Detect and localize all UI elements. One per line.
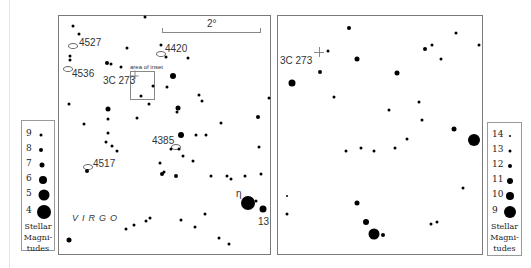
star <box>228 243 231 246</box>
quasar-label: 3C 273 <box>280 56 312 66</box>
star <box>120 66 123 69</box>
star <box>226 175 229 178</box>
galaxy-label-4420: 4420 <box>165 44 187 54</box>
galaxy-label-4527: 4527 <box>79 38 101 48</box>
star <box>347 26 351 30</box>
star <box>260 173 263 176</box>
star <box>395 71 400 76</box>
star <box>107 118 110 121</box>
star <box>180 219 183 222</box>
star <box>149 217 152 220</box>
star <box>318 70 322 74</box>
star <box>289 80 296 87</box>
star <box>201 100 204 103</box>
star <box>178 132 184 138</box>
star <box>210 175 213 178</box>
star <box>394 147 397 150</box>
star <box>468 134 480 146</box>
star <box>166 86 169 89</box>
legend-row-mag4: 4 <box>22 204 54 220</box>
star <box>83 123 86 126</box>
star <box>345 150 348 153</box>
star <box>195 134 198 137</box>
main-magnitude-legend: 9 8 7 6 5 4 Stellar Magni- tudes <box>21 120 55 251</box>
star <box>160 44 163 47</box>
star <box>152 85 155 88</box>
page-margin-line <box>9 0 10 268</box>
star-13 <box>260 206 267 213</box>
eta-star-label: η <box>236 189 242 199</box>
star <box>72 25 75 28</box>
star <box>218 237 221 240</box>
quasar-label: 3C 273 <box>103 76 135 86</box>
star <box>256 115 260 119</box>
star <box>68 103 71 106</box>
legend-row-mag9: 9 <box>22 127 54 143</box>
galaxy-label-4517: 4517 <box>93 159 115 169</box>
legend-row-mag14: 14 <box>488 128 521 144</box>
star <box>182 155 185 158</box>
star <box>133 224 136 227</box>
star <box>105 61 109 65</box>
star <box>198 94 201 97</box>
star <box>178 148 181 151</box>
star <box>286 213 289 216</box>
star-symbol-icon <box>39 176 47 184</box>
star <box>220 122 223 125</box>
star <box>462 187 465 190</box>
star <box>455 32 458 35</box>
legend-row-mag12: 12 <box>488 158 521 174</box>
star <box>174 174 178 178</box>
star <box>85 169 89 173</box>
star <box>388 109 391 112</box>
star-symbol-icon <box>507 178 513 184</box>
star <box>106 107 111 112</box>
star <box>440 58 443 61</box>
legend-row-mag13: 13 <box>488 143 521 159</box>
star <box>418 101 421 104</box>
star <box>187 57 190 60</box>
star <box>478 44 481 47</box>
legend-caption: Stellar Magni- tudes <box>488 221 521 254</box>
legend-row-mag10: 10 <box>488 188 521 204</box>
star <box>126 47 129 50</box>
legend-caption: Stellar Magni- tudes <box>22 221 54 254</box>
inset-finder-chart: 3C 273 <box>277 15 483 255</box>
main-finder-chart: 2° area of inset 3C 273 4527 4536 4420 4… <box>58 15 271 255</box>
star <box>363 219 369 225</box>
star <box>110 63 113 66</box>
star-symbol-icon <box>39 148 43 152</box>
inset-area-label: area of inset <box>130 64 163 70</box>
star-symbol-icon <box>508 164 512 168</box>
star <box>423 47 427 51</box>
star <box>431 44 434 47</box>
galaxy-label-4536: 4536 <box>72 69 94 79</box>
star-symbol-icon <box>37 205 51 219</box>
star <box>136 117 139 120</box>
star <box>140 95 143 98</box>
star-symbol-icon <box>509 150 512 153</box>
star <box>268 97 271 100</box>
star <box>258 146 261 149</box>
star <box>255 200 258 203</box>
star <box>244 175 247 178</box>
star-symbol-icon <box>40 163 45 168</box>
star <box>69 55 72 58</box>
quasar-crosshair-icon <box>314 47 324 57</box>
legend-row-mag8: 8 <box>22 142 54 158</box>
star <box>452 127 457 132</box>
star <box>205 134 208 137</box>
star <box>373 150 376 153</box>
star <box>327 50 330 53</box>
star <box>170 73 176 79</box>
star <box>111 145 114 148</box>
star <box>286 195 288 197</box>
star <box>69 59 72 62</box>
star <box>333 96 336 99</box>
star <box>355 201 360 206</box>
star <box>194 226 197 229</box>
star <box>107 132 110 135</box>
star <box>116 150 119 153</box>
star <box>163 171 166 174</box>
star-symbol-icon <box>40 134 43 137</box>
